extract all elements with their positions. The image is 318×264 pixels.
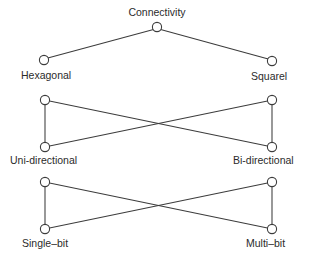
- label-multi-bit: Multi–bit: [246, 237, 285, 249]
- node-bi-directional-top[interactable]: [267, 95, 276, 104]
- label-squarel: Squarel: [251, 70, 287, 82]
- node-uni-directional-top[interactable]: [40, 95, 49, 104]
- edge-connectivity-squarel: [161, 30, 269, 59]
- label-single-bit: Single–bit: [22, 237, 68, 249]
- node-connectivity[interactable]: [152, 22, 161, 31]
- connectivity-group: [39, 22, 276, 65]
- label-uni-directional: Uni-directional: [10, 154, 77, 166]
- label-connectivity: Connectivity: [128, 6, 185, 18]
- bitwidth-group: [40, 177, 276, 233]
- node-hexagonal[interactable]: [39, 55, 48, 64]
- edge-connectivity-hexagonal: [48, 30, 154, 58]
- node-single-bit-bottom[interactable]: [40, 224, 49, 233]
- node-bi-directional-bottom[interactable]: [267, 142, 276, 151]
- node-multi-bit-top[interactable]: [267, 177, 276, 186]
- node-uni-directional-bottom[interactable]: [40, 142, 49, 151]
- lattice-graphics: [0, 0, 318, 264]
- node-squarel[interactable]: [267, 56, 276, 65]
- label-hexagonal: Hexagonal: [21, 69, 71, 81]
- node-single-bit-top[interactable]: [40, 177, 49, 186]
- label-bi-directional: Bi-directional: [233, 154, 294, 166]
- diagram-canvas: Connectivity Hexagonal Squarel Uni-direc…: [0, 0, 318, 264]
- directionality-group: [40, 95, 276, 151]
- node-multi-bit-bottom[interactable]: [267, 224, 276, 233]
